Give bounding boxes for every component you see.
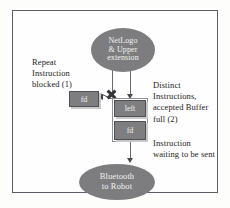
arrowhead-into-bluetooth-icon xyxy=(127,158,133,163)
connector-line-buffer-to-bluetooth xyxy=(130,140,131,160)
node-netlogo-upper-extension: NetLogo & Upper extension xyxy=(91,28,155,72)
diagram-canvas: NetLogo & Upper extension left fd fd Blu… xyxy=(0,0,230,208)
buffer-slot-left: left xyxy=(114,100,146,117)
instruction-waiting-note: Instruction waiting to be sent xyxy=(153,138,227,160)
node-bluetooth-label: Bluetooth to Robot xyxy=(100,172,134,191)
distinct-instructions-note: Distinct Instructions, accepted Buffer f… xyxy=(153,80,227,125)
blocked-instruction-fd-label: fd xyxy=(81,95,88,104)
buffer-slot-fd: fd xyxy=(114,121,146,140)
blocked-instruction-fd: fd xyxy=(69,91,99,107)
node-bluetooth-to-robot: Bluetooth to Robot xyxy=(79,164,155,200)
diagram-frame: NetLogo & Upper extension left fd fd Blu… xyxy=(12,10,218,193)
buffer-slot-left-label: left xyxy=(125,104,136,113)
repeat-instruction-blocked-note: Repeat Instruction blocked (1) xyxy=(32,57,94,91)
buffer-slot-fd-label: fd xyxy=(127,126,134,135)
node-netlogo-label: NetLogo & Upper extension xyxy=(107,37,139,64)
